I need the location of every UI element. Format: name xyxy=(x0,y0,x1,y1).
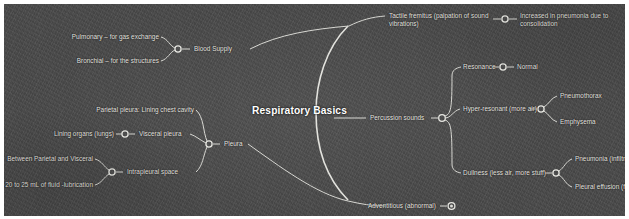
line-dullness-effusion xyxy=(559,175,572,187)
line-intra-between xyxy=(95,159,109,170)
node-parietal-pleura[interactable]: Parietal pleura: Lining chest cavity xyxy=(4,106,194,114)
node-percussion-sounds[interactable]: Percussion sounds xyxy=(370,114,424,122)
node-blood-supply[interactable]: Blood Supply xyxy=(194,45,232,53)
node-ring-hyper xyxy=(538,106,544,112)
line-arc-tactile xyxy=(349,16,385,26)
line-arc-bloodsupply xyxy=(250,26,349,49)
node-ring-dullness xyxy=(553,170,559,176)
node-pneumothorax[interactable]: Pneumothorax xyxy=(560,92,602,100)
node-ring-percussion xyxy=(439,115,446,122)
node-ring-visceral xyxy=(122,131,128,137)
line-perc-resonance xyxy=(445,67,461,116)
line-perc-hyper xyxy=(445,109,460,118)
node-ring-intrapleural xyxy=(109,169,115,175)
line-dullness-pneumonia xyxy=(559,159,572,171)
node-dot-adventitious-collapsed xyxy=(450,205,453,208)
node-pleural-effusion-fluid[interactable]: Pleural effusion (fluid) xyxy=(575,183,625,191)
line-hyper-emphysema xyxy=(544,111,557,122)
line-pleura-intrapleural xyxy=(196,147,207,172)
center-node-label[interactable]: Respiratory Basics xyxy=(252,105,347,116)
node-emphysema[interactable]: Emphysema xyxy=(560,118,596,126)
node-ring-bloodsupply xyxy=(175,46,181,52)
node-fluid-lubrication[interactable]: 20 to 25 mL of fluid -lubrication xyxy=(4,181,93,189)
line-bs-pulmonary xyxy=(161,37,175,48)
node-between-parietal-visceral[interactable]: Between Parietal and Visceral xyxy=(4,155,93,163)
node-ring-pleura xyxy=(206,141,212,147)
node-bronchial-structures[interactable]: Bronchial – for the structures xyxy=(4,57,159,65)
node-intrapleural-space[interactable]: Intrapleural space xyxy=(127,168,178,176)
node-normal[interactable]: Normal xyxy=(517,63,538,71)
central-arc-upper xyxy=(316,26,348,112)
mindmap-canvas: Respiratory Basics Blood Supply Pulmonar… xyxy=(4,4,625,216)
line-bs-bronchial xyxy=(161,50,175,61)
line-perc-dullness xyxy=(445,120,461,173)
line-pleura-visceral xyxy=(190,134,206,143)
node-increased-pneumonia-consolidation[interactable]: Increased in pneumonia due to consolidat… xyxy=(520,12,623,28)
node-dullness[interactable]: Dullness (less air, more stuff) xyxy=(463,169,546,177)
node-lining-organs-lungs[interactable]: Lining organs (lungs) xyxy=(4,130,114,138)
line-arc-pleura xyxy=(248,144,348,201)
central-arc-lower xyxy=(316,112,348,200)
node-ring-tactile xyxy=(502,16,508,22)
node-pneumonia-infiltrates[interactable]: Pneumonia (infiltrates) xyxy=(575,155,625,163)
line-intra-fluid xyxy=(95,174,109,185)
node-visceral-pleura[interactable]: Visceral pleura xyxy=(139,130,181,138)
node-ring-resonance xyxy=(500,64,506,70)
node-pulmonary-gas-exchange[interactable]: Pulmonary – for gas exchange xyxy=(4,33,159,41)
node-hyper-resonant[interactable]: Hyper-resonant (more air) xyxy=(463,105,537,113)
node-adventitious-abnormal[interactable]: Adventitious (abnormal) xyxy=(368,202,436,210)
node-pleura[interactable]: Pleura xyxy=(224,140,243,148)
line-pleura-parietal xyxy=(196,110,207,141)
node-tactile-fremitus[interactable]: Tactile fremitus (palpation of sound vib… xyxy=(389,12,493,28)
line-hyper-pneumothorax xyxy=(544,96,557,107)
node-resonance[interactable]: Resonance xyxy=(463,63,496,71)
